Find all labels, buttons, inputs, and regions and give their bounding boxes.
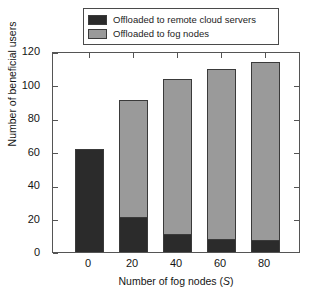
x-tick-top-20 xyxy=(133,53,134,58)
y-tick-label-100: 100 xyxy=(0,80,40,91)
x-axis-title-symbol: S xyxy=(223,275,230,287)
bar-group-0 xyxy=(75,149,104,252)
y-tick-right-40 xyxy=(294,187,299,188)
y-tick-20 xyxy=(53,220,58,221)
y-tick-0 xyxy=(53,253,58,254)
x-tick-label-60: 60 xyxy=(200,257,240,269)
legend-item-cloud: Offloaded to remote cloud servers xyxy=(88,13,274,26)
y-tick-right-20 xyxy=(294,220,299,221)
plot-area xyxy=(53,53,299,252)
x-tick-top-40 xyxy=(177,53,178,58)
y-tick-label-120: 120 xyxy=(0,46,40,57)
x-tick-top-80 xyxy=(265,53,266,58)
bar-segment-fog-20 xyxy=(119,100,148,217)
bar-segment-cloud-40 xyxy=(163,234,192,252)
bar-segment-fog-60 xyxy=(207,69,236,239)
legend-swatch-cloud xyxy=(88,15,107,25)
legend-swatch-fog xyxy=(88,29,107,39)
bar-segment-cloud-0 xyxy=(75,149,104,252)
bar-group-40 xyxy=(163,79,192,252)
y-tick-120 xyxy=(53,53,58,54)
y-tick-right-100 xyxy=(294,86,299,87)
bar-segment-fog-40 xyxy=(163,79,192,234)
x-axis-title-suffix: ) xyxy=(230,275,234,287)
legend-item-fog: Offloaded to fog nodes xyxy=(88,27,274,40)
y-tick-100 xyxy=(53,86,58,87)
y-tick-label-60: 60 xyxy=(0,147,40,158)
x-tick-top-0 xyxy=(89,53,90,58)
bar-segment-fog-80 xyxy=(251,62,280,240)
bar-group-80 xyxy=(251,62,280,252)
legend-label-fog: Offloaded to fog nodes xyxy=(113,28,209,39)
stacked-bar-chart-figure: Offloaded to remote cloud servers Offloa… xyxy=(0,0,321,304)
y-tick-60 xyxy=(53,153,58,154)
y-tick-label-80: 80 xyxy=(0,113,40,124)
y-tick-40 xyxy=(53,187,58,188)
x-tick-label-40: 40 xyxy=(156,257,196,269)
bar-segment-cloud-80 xyxy=(251,240,280,252)
chart-legend: Offloaded to remote cloud servers Offloa… xyxy=(83,8,279,45)
bar-group-20 xyxy=(119,100,148,252)
bar-segment-cloud-60 xyxy=(207,239,236,252)
y-tick-label-0: 0 xyxy=(0,247,40,258)
x-tick-label-0: 0 xyxy=(68,257,108,269)
x-tick-label-80: 80 xyxy=(244,257,284,269)
legend-label-cloud: Offloaded to remote cloud servers xyxy=(113,14,256,25)
plot-area-frame xyxy=(52,52,300,253)
x-tick-top-60 xyxy=(221,53,222,58)
x-axis-title-prefix: Number of fog nodes ( xyxy=(119,275,223,287)
bar-group-60 xyxy=(207,69,236,252)
y-tick-right-60 xyxy=(294,153,299,154)
y-tick-80 xyxy=(53,120,58,121)
bar-segment-cloud-20 xyxy=(119,217,148,252)
x-axis-title: Number of fog nodes (S) xyxy=(52,275,300,287)
y-tick-label-20: 20 xyxy=(0,214,40,225)
y-tick-label-40: 40 xyxy=(0,180,40,191)
y-tick-right-80 xyxy=(294,120,299,121)
x-tick-label-20: 20 xyxy=(112,257,152,269)
